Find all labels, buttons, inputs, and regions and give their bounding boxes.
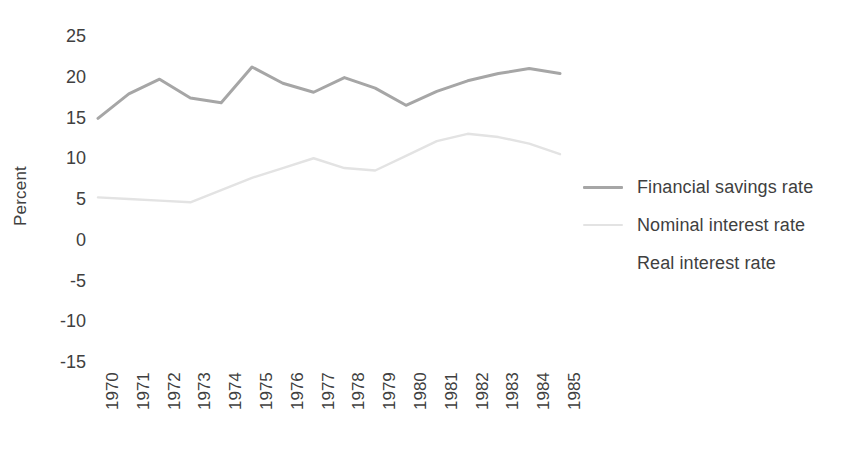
legend-label: Real interest rate <box>637 253 776 274</box>
y-axis-tick: -5 <box>30 272 86 290</box>
legend-label: Financial savings rate <box>637 177 813 198</box>
x-axis-tick-labels: 1970197119721973197419751976197719781979… <box>92 362 582 451</box>
x-axis-tick: 1972 <box>166 330 183 410</box>
legend-label: Nominal interest rate <box>637 215 805 236</box>
y-axis-title: Percent <box>11 151 31 241</box>
x-axis-tick: 1974 <box>227 330 244 410</box>
x-axis-tick: 1971 <box>135 330 152 410</box>
x-axis-tick: 1976 <box>289 330 306 410</box>
series-line-1 <box>98 134 560 202</box>
y-axis-tick: -10 <box>30 312 86 330</box>
plot-area <box>92 0 570 380</box>
y-axis-tick: 10 <box>30 149 86 167</box>
legend-swatch-icon <box>583 262 623 264</box>
x-axis-tick: 1980 <box>412 330 429 410</box>
y-axis-tick: 5 <box>30 190 86 208</box>
y-axis-tick: 0 <box>30 231 86 249</box>
legend-item[interactable]: Nominal interest rate <box>583 206 858 244</box>
y-axis-tick: 15 <box>30 109 86 127</box>
x-axis-tick: 1977 <box>320 330 337 410</box>
x-axis-tick: 1979 <box>381 330 398 410</box>
x-axis-tick: 1983 <box>504 330 521 410</box>
y-axis-tick: -15 <box>30 353 86 371</box>
legend-swatch-icon <box>583 224 623 226</box>
y-axis-tick: 20 <box>30 68 86 86</box>
y-axis-tick: 25 <box>30 27 86 45</box>
legend-swatch-icon <box>583 186 623 189</box>
x-axis-tick: 1978 <box>350 330 367 410</box>
legend-item[interactable]: Real interest rate <box>583 244 858 282</box>
x-axis-tick: 1982 <box>474 330 491 410</box>
line-chart: Percent 2520151050-5-10-15 1970197119721… <box>0 0 860 451</box>
x-axis-tick: 1985 <box>566 330 583 410</box>
x-axis-tick: 1981 <box>443 330 460 410</box>
x-axis-tick: 1984 <box>535 330 552 410</box>
chart-legend: Financial savings rateNominal interest r… <box>583 168 858 282</box>
legend-item[interactable]: Financial savings rate <box>583 168 858 206</box>
x-axis-tick: 1973 <box>196 330 213 410</box>
series-line-0 <box>98 67 560 118</box>
x-axis-tick: 1975 <box>258 330 275 410</box>
x-axis-tick: 1970 <box>104 330 121 410</box>
y-axis-tick-labels: 2520151050-5-10-15 <box>30 0 86 451</box>
series-canvas <box>92 0 570 380</box>
